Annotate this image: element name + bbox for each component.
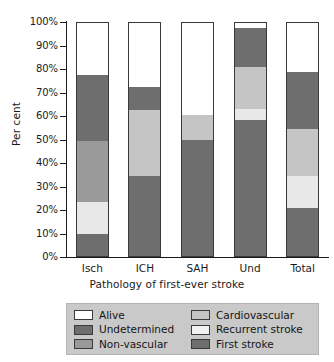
legend: AliveUndeterminedNon-vascular Cardiovasc… xyxy=(66,303,319,355)
legend-swatch-icon xyxy=(191,310,210,320)
bar-segment-alive xyxy=(77,22,108,75)
x-tick-label-total: Total xyxy=(276,261,329,275)
x-tick-label-und: Und xyxy=(224,261,277,275)
bar-isch xyxy=(76,22,109,257)
bar-segment-undetermined xyxy=(235,28,266,67)
legend-swatch-icon xyxy=(74,310,93,320)
bar-segment-first-stroke xyxy=(235,120,266,256)
y-tick-label: 60% xyxy=(24,111,58,121)
bar-segment-cardiovascular xyxy=(182,115,213,140)
bar-segment-cardiovascular xyxy=(129,110,160,176)
y-tick-label: 70% xyxy=(24,88,58,98)
y-tick-label: 80% xyxy=(24,64,58,74)
x-tick-label-ich: ICH xyxy=(119,261,172,275)
plot-region: Per cent 100%90%80%70%60%50%40%30%20%10%… xyxy=(0,0,334,290)
legend-label: Cardiovascular xyxy=(216,310,294,321)
bar-segment-first-stroke xyxy=(77,234,108,256)
legend-label: Recurrent stroke xyxy=(216,324,303,335)
bar-segment-undetermined xyxy=(77,75,108,141)
bar-sah xyxy=(181,22,214,257)
bar-total xyxy=(286,22,319,257)
legend-label: Alive xyxy=(99,310,125,321)
legend-swatch-icon xyxy=(74,325,93,335)
y-tick-label: 0% xyxy=(24,252,58,262)
y-tick-label: 40% xyxy=(24,158,58,168)
legend-label: First stroke xyxy=(216,339,274,350)
bar-segment-cardiovascular xyxy=(235,67,266,109)
legend-item: Non-vascular xyxy=(74,337,196,352)
legend-swatch-icon xyxy=(191,325,210,335)
legend-item: Alive xyxy=(74,308,196,323)
x-axis-line xyxy=(66,257,329,258)
legend-item: First stroke xyxy=(191,337,317,352)
bar-segment-first-stroke xyxy=(129,176,160,256)
legend-item: Recurrent stroke xyxy=(191,323,317,338)
x-axis-title: Pathology of first-ever stroke xyxy=(0,278,334,290)
legend-swatch-icon xyxy=(74,339,93,349)
y-tick-label: 90% xyxy=(24,41,58,51)
bar-segment-recurrent-stroke xyxy=(77,202,108,234)
y-tick-label: 50% xyxy=(24,135,58,145)
legend-label: Non-vascular xyxy=(99,339,168,350)
stacked-bar-chart-figure: Per cent 100%90%80%70%60%50%40%30%20%10%… xyxy=(0,0,334,362)
legend-column-left: AliveUndeterminedNon-vascular xyxy=(74,308,196,352)
bar-segment-alive xyxy=(182,22,213,115)
bar-segment-alive xyxy=(287,22,318,72)
legend-column-right: CardiovascularRecurrent strokeFirst stro… xyxy=(191,308,317,352)
bar-und xyxy=(234,22,267,257)
bar-segment-recurrent-stroke xyxy=(235,109,266,120)
bar-segment-alive xyxy=(235,22,266,28)
bar-ich xyxy=(128,22,161,257)
y-tick-label: 100% xyxy=(24,17,58,27)
x-tick-label-sah: SAH xyxy=(171,261,224,275)
y-tick-label: 10% xyxy=(24,229,58,239)
x-tick-label-isch: Isch xyxy=(66,261,119,275)
x-axis-tick-labels: IschICHSAHUndTotal xyxy=(66,261,329,277)
bars-layer xyxy=(66,22,329,257)
y-axis-title: Per cent xyxy=(10,84,22,164)
bar-segment-undetermined xyxy=(287,72,318,130)
bar-segment-first-stroke xyxy=(287,208,318,256)
bar-segment-alive xyxy=(129,22,160,87)
bar-segment-non-vascular xyxy=(77,141,108,202)
y-tick-label: 30% xyxy=(24,182,58,192)
y-axis-tick-labels: 100%90%80%70%60%50%40%30%20%10%0% xyxy=(24,0,58,290)
bar-segment-recurrent-stroke xyxy=(287,176,318,208)
bar-segment-undetermined xyxy=(129,87,160,111)
legend-label: Undetermined xyxy=(99,324,174,335)
bar-segment-cardiovascular xyxy=(287,129,318,176)
bar-segment-first-stroke xyxy=(182,140,213,256)
legend-swatch-icon xyxy=(191,339,210,349)
y-tick-label: 20% xyxy=(24,205,58,215)
legend-item: Cardiovascular xyxy=(191,308,317,323)
legend-item: Undetermined xyxy=(74,323,196,338)
